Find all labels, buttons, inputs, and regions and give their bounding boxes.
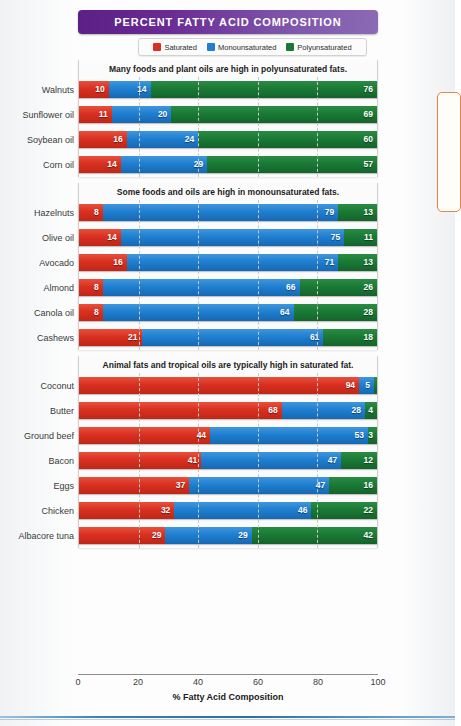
bar-value-label: 69 <box>364 110 377 119</box>
bar-value-label: 16 <box>364 481 377 490</box>
chart-panel-3: Animal fats and tropical oils are typica… <box>78 356 378 548</box>
stacked-bar: 162460 <box>79 131 377 148</box>
stacked-bar: 147511 <box>79 229 377 246</box>
panel-body: Coconut9451Butter68284Ground beef44533Ba… <box>79 373 377 548</box>
panel-header: Some foods and oils are high in monounsa… <box>79 183 377 200</box>
bar-row: Almond86626 <box>79 275 377 300</box>
bar-segment-saturated: 8 <box>79 304 103 321</box>
bar-segment-saturated: 11 <box>79 106 112 123</box>
stacked-bar: 87913 <box>79 204 377 221</box>
bar-segment-saturated: 37 <box>79 477 189 494</box>
panel-body: Hazelnuts87913Olive oil147511Avocado1671… <box>79 200 377 350</box>
x-tick-0: 0 <box>75 677 80 687</box>
bar-value-label: 47 <box>328 456 341 465</box>
legend-item-label: Monounsaturated <box>218 43 276 52</box>
bar-segment-saturated: 94 <box>79 377 359 394</box>
bar-value-label: 14 <box>107 233 120 242</box>
bar-value-label: 28 <box>352 406 365 415</box>
category-label: Chicken <box>41 498 74 523</box>
bar-row: Hazelnuts87913 <box>79 200 377 225</box>
bar-segment-monounsaturated: 29 <box>165 527 251 544</box>
category-label: Eggs <box>53 473 74 498</box>
x-axis-ticks: 020406080100 <box>78 677 378 691</box>
bar-value-label: 32 <box>161 506 174 515</box>
category-label: Soybean oil <box>27 127 74 152</box>
bar-value-label: 26 <box>364 283 377 292</box>
bar-value-label: 42 <box>364 531 377 540</box>
bar-segment-polyunsaturated: 12 <box>341 452 377 469</box>
bar-value-label: 29 <box>238 531 251 540</box>
bar-value-label: 44 <box>197 431 210 440</box>
bar-segment-polyunsaturated: 13 <box>338 204 377 221</box>
bar-segment-saturated: 10 <box>79 81 109 98</box>
bar-value-label: 13 <box>364 258 377 267</box>
legend-item-label: Saturated <box>164 43 197 52</box>
x-tick-20: 20 <box>133 677 143 687</box>
stacked-bar: 101476 <box>79 81 377 98</box>
bar-row: Canola oil86428 <box>79 300 377 325</box>
bar-segment-saturated: 32 <box>79 502 174 519</box>
category-label: Canola oil <box>34 300 74 325</box>
bar-value-label: 75 <box>331 233 344 242</box>
panel-header: Animal fats and tropical oils are typica… <box>79 356 377 373</box>
bar-value-label: 8 <box>94 283 103 292</box>
stacked-bar: 324622 <box>79 502 377 519</box>
bar-segment-polyunsaturated: 69 <box>171 106 377 123</box>
bar-segment-monounsaturated: 28 <box>282 402 365 419</box>
side-callout-box <box>437 92 461 212</box>
bar-segment-polyunsaturated: 60 <box>198 131 377 148</box>
bar-row: Avocado167113 <box>79 250 377 275</box>
bar-value-label: 29 <box>194 160 207 169</box>
bar-row: Soybean oil162460 <box>79 127 377 152</box>
bar-segment-polyunsaturated: 13 <box>338 254 377 271</box>
category-label: Albacore tuna <box>18 523 74 548</box>
bar-segment-monounsaturated: 64 <box>103 304 294 321</box>
stacked-bar: 142957 <box>79 156 377 173</box>
stacked-bar: 68284 <box>79 402 377 419</box>
stacked-bar: 167113 <box>79 254 377 271</box>
bar-segment-saturated: 41 <box>79 452 201 469</box>
bar-segment-monounsaturated: 24 <box>127 131 199 148</box>
bar-value-label: 3 <box>368 431 377 440</box>
bar-value-label: 66 <box>286 283 299 292</box>
bar-value-label: 60 <box>364 135 377 144</box>
bar-row: Albacore tuna292942 <box>79 523 377 548</box>
stacked-bar: 292942 <box>79 527 377 544</box>
bar-segment-monounsaturated: 5 <box>359 377 374 394</box>
bar-value-label: 14 <box>107 160 120 169</box>
bar-row: Chicken324622 <box>79 498 377 523</box>
category-label: Cashews <box>37 325 74 350</box>
bar-value-label: 10 <box>95 85 108 94</box>
bar-segment-saturated: 44 <box>79 427 210 444</box>
bar-value-label: 12 <box>364 456 377 465</box>
bar-segment-polyunsaturated: 57 <box>207 156 377 173</box>
bar-segment-polyunsaturated: 4 <box>365 402 377 419</box>
category-label: Almond <box>43 275 74 300</box>
bar-value-label: 47 <box>316 481 329 490</box>
bar-value-label: 57 <box>364 160 377 169</box>
stacked-bar: 44533 <box>79 427 377 444</box>
page-title: PERCENT FATTY ACID COMPOSITION <box>114 16 341 28</box>
stacked-bar: 414712 <box>79 452 377 469</box>
bar-value-label: 46 <box>298 506 311 515</box>
legend-item-label: Polyunsaturated <box>297 43 351 52</box>
bar-row: Walnuts101476 <box>79 77 377 102</box>
category-label: Sunflower oil <box>22 102 74 127</box>
bar-value-label: 16 <box>113 258 126 267</box>
bar-segment-saturated: 29 <box>79 527 165 544</box>
bar-row: Olive oil147511 <box>79 225 377 250</box>
bar-segment-monounsaturated: 47 <box>201 452 341 469</box>
bar-value-label: 1 <box>374 381 377 390</box>
bar-segment-monounsaturated: 14 <box>109 81 151 98</box>
category-label: Olive oil <box>42 225 74 250</box>
bar-value-label: 8 <box>94 208 103 217</box>
stacked-bar: 216118 <box>79 329 377 346</box>
bar-value-label: 20 <box>158 110 171 119</box>
bar-value-label: 22 <box>364 506 377 515</box>
bar-segment-saturated: 8 <box>79 279 103 296</box>
category-label: Walnuts <box>42 77 74 102</box>
bar-segment-monounsaturated: 47 <box>189 477 329 494</box>
bar-value-label: 29 <box>152 531 165 540</box>
legend-swatch-monounsaturated <box>207 43 215 51</box>
